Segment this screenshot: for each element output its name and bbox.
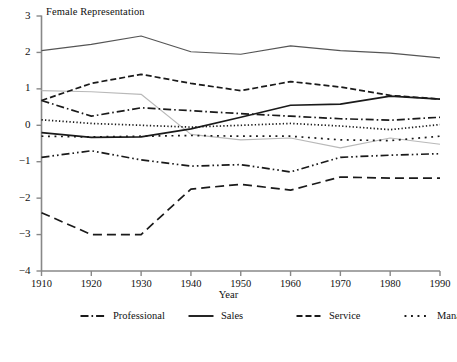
x-tick-label: 1980 <box>368 278 412 289</box>
y-tick-label: −2 <box>9 191 31 203</box>
y-tick-label: 1 <box>9 81 31 93</box>
chart-title: Female Representation <box>46 6 145 17</box>
legend-item-sales[interactable]: Sales <box>188 308 292 323</box>
legend-item-managerial[interactable]: Managerial <box>404 308 457 323</box>
series-line-craft <box>42 177 441 235</box>
chart-figure: Female Representation 3210−1−2−3−4 19101… <box>0 0 457 362</box>
series-line-sales <box>42 96 441 137</box>
legend-label: Professional <box>113 310 165 322</box>
legend-item-service[interactable]: Service <box>296 308 400 323</box>
legend-swatch-sales-icon <box>188 311 214 321</box>
legend-swatch-service-icon <box>296 311 322 321</box>
x-tick-label: 1930 <box>119 278 163 289</box>
y-tick-label: −4 <box>9 264 31 276</box>
x-tick-label: 1950 <box>219 278 263 289</box>
x-tick-label: 1910 <box>20 278 64 289</box>
y-tick-label: −1 <box>9 154 31 166</box>
series-line-farm <box>42 91 441 148</box>
x-axis-title: Year <box>0 289 457 300</box>
legend-label: Service <box>329 310 361 322</box>
series-line-operative <box>42 120 441 130</box>
x-tick-label: 1940 <box>169 278 213 289</box>
x-tick-label: 1920 <box>69 278 113 289</box>
legend-item-professional[interactable]: Professional <box>80 308 184 323</box>
series-line-service <box>42 74 441 100</box>
legend-swatch-managerial-icon <box>404 311 430 321</box>
y-tick-label: 0 <box>9 118 31 130</box>
series-line-clerical <box>42 36 441 58</box>
y-tick-label: 2 <box>9 45 31 57</box>
legend-label: Managerial <box>437 310 457 322</box>
series-line-labor <box>42 151 441 172</box>
chart-legend: ProfessionalSalesServiceManagerialCraftF… <box>80 308 410 323</box>
y-tick-label: 3 <box>9 9 31 21</box>
y-tick-label: −3 <box>9 227 31 239</box>
x-tick-label: 1970 <box>318 278 362 289</box>
x-tick-label: 1990 <box>418 278 457 289</box>
x-tick-label: 1960 <box>269 278 313 289</box>
legend-label: Sales <box>221 310 243 322</box>
legend-swatch-professional-icon <box>80 311 106 321</box>
